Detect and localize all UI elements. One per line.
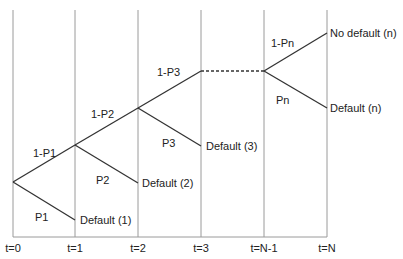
branch-default-n [264, 71, 327, 108]
outcome-default-n: Default (n) [330, 102, 381, 114]
time-label-t1: t=1 [67, 242, 83, 254]
time-label-tN: t=N [318, 242, 335, 254]
tree-branches [13, 33, 327, 220]
time-label-t2: t=2 [130, 242, 146, 254]
label-survive-2: 1-P2 [91, 108, 114, 120]
outcome-no-default-n: No default (n) [330, 27, 397, 39]
outcome-default-1: Default (1) [80, 214, 131, 226]
default-tree-diagram: 1-P1 P1 1-P2 P2 1-P3 P3 1-Pn Pn Default … [0, 0, 403, 259]
time-label-tN-1: t=N-1 [250, 242, 277, 254]
label-default-n: Pn [276, 94, 289, 106]
time-label-t3: t=3 [193, 242, 209, 254]
label-default-3: P3 [162, 137, 175, 149]
outcome-default-3: Default (3) [206, 140, 257, 152]
label-survive-1: 1-P1 [33, 147, 56, 159]
outcome-default-2: Default (2) [142, 177, 193, 189]
time-label-t0: t=0 [5, 242, 21, 254]
label-default-2: P2 [96, 174, 109, 186]
label-default-1: P1 [35, 211, 48, 223]
label-survive-n: 1-Pn [271, 37, 294, 49]
label-survive-3: 1-P3 [157, 66, 180, 78]
